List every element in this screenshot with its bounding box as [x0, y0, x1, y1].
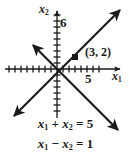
line-x1-minus-x2-equals-1: [14, 10, 120, 116]
y-axis-label: x2: [39, 3, 49, 16]
equation-1-operator: +: [52, 116, 59, 131]
x-tick-label-5: 5: [85, 72, 92, 85]
equation-2-equals: =: [76, 136, 83, 151]
equation-2-operator: −: [52, 136, 59, 151]
equation-1-rhs: 5: [87, 116, 94, 131]
intersection-point-label: (3, 2): [85, 46, 111, 58]
intersection-point-marker: [72, 54, 78, 60]
equation-2-rhs: 1: [87, 136, 94, 151]
equation-2-sub-b: 2: [69, 143, 73, 152]
x-axis-label: x1: [112, 70, 122, 83]
equation-1-sub-a: 1: [44, 123, 48, 132]
equation-1-sub-b: 2: [69, 123, 73, 132]
math-graph-figure: x2 x1 6 5 (3, 2) x1 + x2 = 5 x1 − x2 = 1: [0, 0, 131, 156]
y-tick-label-6: 6: [60, 16, 67, 29]
equation-1: x1 + x2 = 5: [0, 116, 131, 136]
equation-2: x1 − x2 = 1: [0, 136, 131, 156]
equation-system: x1 + x2 = 5 x1 − x2 = 1: [0, 116, 131, 156]
y-axis-label-subscript: 2: [45, 8, 49, 17]
equation-2-sub-a: 1: [44, 143, 48, 152]
x-axis-label-subscript: 1: [118, 75, 122, 84]
equation-1-equals: =: [76, 116, 83, 131]
